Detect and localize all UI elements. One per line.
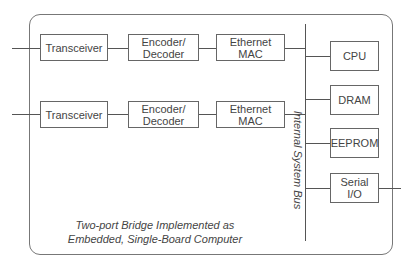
port2-link-2 [199,114,216,115]
diagram-caption: Two-port Bridge Implemented as Embedded,… [55,218,255,246]
port2-ethernet-mac: Ethernet MAC [216,101,285,128]
bus-label: Internal System Bus [292,111,304,209]
port2-external-link [12,114,40,115]
caption-line-1: Two-port Bridge Implemented as [55,218,255,232]
port1-transceiver: Transceiver [40,34,108,61]
serial-io-block: Serial I/O [330,173,379,203]
port2-transceiver: Transceiver [40,101,108,128]
dram-bus-link [305,99,330,100]
cpu-bus-link [305,56,330,57]
port2-encoder: Encoder/ Decoder [128,101,199,128]
port1-link-2 [199,48,216,49]
port1-ethernet-mac: Ethernet MAC [216,34,285,61]
serial-external-link [379,188,401,189]
port1-link-1 [108,48,128,49]
cpu-block: CPU [330,41,379,71]
port2-link-1 [108,114,128,115]
eeprom-block: EEPROM [330,128,379,158]
port1-encoder: Encoder/ Decoder [128,34,199,61]
port1-external-link [12,48,40,49]
eeprom-bus-link [305,143,330,144]
port1-bus-link [285,48,305,49]
dram-block: DRAM [330,85,379,115]
caption-line-2: Embedded, Single-Board Computer [55,232,255,246]
port2-bus-link [285,114,305,115]
serial-bus-link [305,188,330,189]
